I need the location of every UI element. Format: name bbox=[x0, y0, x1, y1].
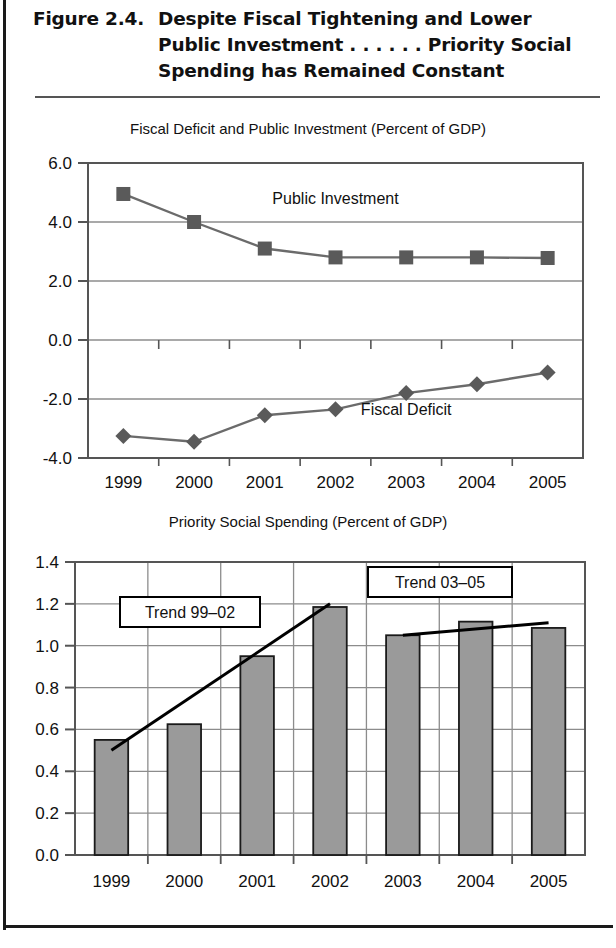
series-annotation-label: Fiscal Deficit bbox=[361, 401, 452, 418]
trend-annotation: Trend 99–02 bbox=[120, 597, 260, 627]
y-tick-label: 1.0 bbox=[35, 637, 59, 656]
figure-title-text: Despite Fiscal Tightening and Lower Publ… bbox=[158, 6, 603, 84]
x-tick-label: 2005 bbox=[530, 872, 568, 891]
data-point-marker bbox=[329, 250, 343, 264]
series-annotation-label: Public Investment bbox=[272, 190, 399, 207]
data-point-marker bbox=[399, 250, 413, 264]
y-tick-label: 6.0 bbox=[48, 154, 72, 173]
data-point-marker bbox=[258, 242, 272, 256]
y-tick-label: -4.0 bbox=[43, 449, 72, 468]
page-bottom-rule bbox=[3, 925, 613, 928]
x-tick-label: 2005 bbox=[529, 473, 567, 490]
x-tick-label: 2003 bbox=[384, 872, 422, 891]
trend-label-text: Trend 99–02 bbox=[145, 604, 235, 621]
y-tick-label: 0.0 bbox=[48, 331, 72, 350]
data-point-marker bbox=[469, 376, 485, 392]
bar bbox=[313, 607, 347, 855]
x-tick-label: 2000 bbox=[175, 473, 213, 490]
data-point-marker bbox=[116, 187, 130, 201]
x-tick-label: 1999 bbox=[104, 473, 142, 490]
x-tick-label: 2002 bbox=[311, 872, 349, 891]
x-tick-label: 1999 bbox=[93, 872, 131, 891]
line-chart-svg: 6.04.02.00.0-2.0-4.0Public InvestmentFis… bbox=[0, 110, 616, 490]
x-tick-label: 2004 bbox=[458, 473, 496, 490]
bar bbox=[240, 656, 274, 855]
data-point-marker bbox=[470, 250, 484, 264]
data-point-marker bbox=[186, 434, 202, 450]
y-tick-label: 1.4 bbox=[35, 553, 59, 572]
data-point-marker bbox=[328, 401, 344, 417]
y-tick-label: 0.0 bbox=[35, 846, 59, 865]
bar bbox=[168, 724, 202, 855]
y-tick-label: 0.2 bbox=[35, 804, 59, 823]
bar-chart-title: Priority Social Spending (Percent of GDP… bbox=[0, 513, 616, 530]
data-point-marker bbox=[257, 407, 273, 423]
y-tick-label: 0.4 bbox=[35, 762, 59, 781]
trend-label-text: Trend 03–05 bbox=[395, 574, 485, 591]
figure-title-line-1: Despite Fiscal Tightening and Lower bbox=[158, 8, 531, 29]
bar bbox=[386, 635, 420, 855]
x-tick-label: 2003 bbox=[387, 473, 425, 490]
bar bbox=[459, 622, 493, 855]
bar bbox=[532, 628, 566, 855]
y-tick-label: 2.0 bbox=[48, 272, 72, 291]
bar-chart-svg: 1.41.21.00.80.60.40.20.0Trend 99–02Trend… bbox=[0, 505, 616, 905]
y-tick-label: 0.8 bbox=[35, 679, 59, 698]
trend-annotation: Trend 03–05 bbox=[368, 567, 512, 597]
x-tick-label: 2004 bbox=[457, 872, 495, 891]
data-point-marker bbox=[541, 251, 555, 265]
figure-title-line-2: Public Investment . . . . . . Priority S… bbox=[158, 34, 571, 55]
line-chart-title: Fiscal Deficit and Public Investment (Pe… bbox=[0, 120, 616, 137]
x-tick-label: 2001 bbox=[246, 473, 284, 490]
figure-title-line-3: Spending has Remained Constant bbox=[158, 60, 504, 81]
data-point-marker bbox=[540, 364, 556, 380]
line-chart-panel: Fiscal Deficit and Public Investment (Pe… bbox=[0, 110, 616, 490]
data-point-marker bbox=[187, 215, 201, 229]
bar bbox=[95, 740, 129, 855]
figure-number: Figure 2.4. bbox=[33, 6, 158, 32]
title-divider-rule bbox=[35, 96, 600, 98]
y-tick-label: -2.0 bbox=[43, 390, 72, 409]
y-tick-label: 4.0 bbox=[48, 213, 72, 232]
y-tick-label: 0.6 bbox=[35, 720, 59, 739]
x-tick-label: 2001 bbox=[238, 872, 276, 891]
figure-title: Figure 2.4. Despite Fiscal Tightening an… bbox=[33, 6, 603, 84]
x-tick-label: 2002 bbox=[317, 473, 355, 490]
bar-chart-panel: Priority Social Spending (Percent of GDP… bbox=[0, 505, 616, 905]
data-point-marker bbox=[115, 428, 131, 444]
y-tick-label: 1.2 bbox=[35, 595, 59, 614]
x-tick-label: 2000 bbox=[165, 872, 203, 891]
